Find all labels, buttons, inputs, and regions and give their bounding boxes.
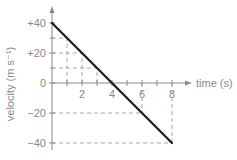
velocity-time-chart: 2468 +40+200−20−40 time (s) velocity (m … xyxy=(0,0,237,160)
y-tick-label: −20 xyxy=(27,107,46,119)
y-axis-arrow-icon xyxy=(50,6,55,13)
x-tick-label: 6 xyxy=(139,88,145,100)
y-tick-label: +20 xyxy=(27,47,46,59)
y-tick-label: 0 xyxy=(40,77,46,89)
x-tick-label: 8 xyxy=(169,88,175,100)
x-axis-label: time (s) xyxy=(196,77,233,89)
x-axis-arrow-icon xyxy=(185,81,192,86)
y-axis-label: velocity (m s⁻¹) xyxy=(4,47,16,121)
y-ticks: +40+200−20−40 xyxy=(27,17,55,149)
x-tick-label: 4 xyxy=(109,88,115,100)
y-tick-label: −40 xyxy=(27,137,46,149)
y-tick-label: +40 xyxy=(27,17,46,29)
axes xyxy=(50,6,193,150)
x-tick-label: 2 xyxy=(79,88,85,100)
